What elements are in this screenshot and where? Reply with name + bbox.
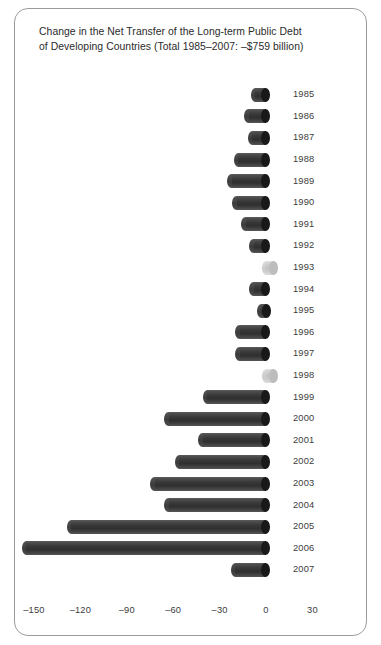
year-label-2003: 2003	[293, 478, 314, 488]
bar-1992[interactable]	[254, 239, 266, 253]
bar-row: 2004	[15, 494, 368, 516]
bar-row: 1988	[15, 149, 368, 171]
bar-row: 1997	[15, 343, 368, 365]
bar-1998[interactable]	[266, 369, 274, 383]
bar-body	[169, 498, 266, 512]
bar-body	[26, 541, 266, 555]
plot-area: 1985198619871988198919901991199219931994…	[15, 75, 368, 595]
year-label-1990: 1990	[293, 197, 314, 207]
bar-row: 1996	[15, 322, 368, 344]
x-axis: –150–120–90–60–30030	[15, 605, 368, 627]
x-tick-label: 0	[263, 605, 268, 615]
bar-row: 1991	[15, 214, 368, 236]
bar-row: 1995	[15, 300, 368, 322]
bar-row: 2002	[15, 451, 368, 473]
bar-cap-right	[262, 304, 271, 318]
year-label-1987: 1987	[293, 132, 314, 142]
bar-body	[169, 412, 266, 426]
year-label-2006: 2006	[293, 543, 314, 553]
bar-cap-right	[261, 477, 270, 491]
year-label-2005: 2005	[293, 521, 314, 531]
bar-cap-right	[261, 563, 270, 577]
bar-body	[179, 455, 266, 469]
bar-2006[interactable]	[26, 541, 266, 555]
bar-1999[interactable]	[207, 390, 266, 404]
bar-body	[207, 390, 266, 404]
bar-body	[71, 520, 266, 534]
bar-2002[interactable]	[179, 455, 266, 469]
bar-1991[interactable]	[246, 217, 266, 231]
bar-cap-right	[261, 239, 270, 253]
year-label-2004: 2004	[293, 500, 314, 510]
year-label-1992: 1992	[293, 240, 314, 250]
bar-1986[interactable]	[249, 109, 266, 123]
bar-body	[203, 433, 266, 447]
bar-cap-right	[261, 282, 270, 296]
year-label-2007: 2007	[293, 564, 314, 574]
bar-cap-right	[261, 109, 270, 123]
bar-row: 1999	[15, 386, 368, 408]
bar-1993[interactable]	[266, 261, 274, 275]
year-label-1996: 1996	[293, 327, 314, 337]
bar-cap-right	[261, 131, 270, 145]
bar-cap-right	[269, 261, 278, 275]
bar-2005[interactable]	[71, 520, 266, 534]
bar-cap-right	[261, 196, 270, 210]
bar-row: 1990	[15, 192, 368, 214]
bar-row: 1993	[15, 257, 368, 279]
x-tick-label: –150	[23, 605, 44, 615]
bar-cap-right	[261, 541, 270, 555]
year-label-2001: 2001	[293, 435, 314, 445]
bar-1990[interactable]	[237, 196, 266, 210]
year-label-1997: 1997	[293, 348, 314, 358]
bar-1987[interactable]	[252, 131, 266, 145]
bar-row: 1998	[15, 365, 368, 387]
bar-1996[interactable]	[240, 325, 266, 339]
bar-1985[interactable]	[255, 88, 266, 102]
bar-2007[interactable]	[235, 563, 266, 577]
year-label-1986: 1986	[293, 111, 314, 121]
bar-2000[interactable]	[169, 412, 266, 426]
year-label-1991: 1991	[293, 219, 314, 229]
x-tick-label: –120	[70, 605, 91, 615]
x-tick-label: –30	[212, 605, 228, 615]
bar-cap-right	[261, 174, 270, 188]
bar-2003[interactable]	[155, 477, 266, 491]
bar-row: 1985	[15, 84, 368, 106]
bar-cap-right	[261, 520, 270, 534]
bar-cap-right	[261, 433, 270, 447]
bar-1989[interactable]	[232, 174, 266, 188]
year-label-1985: 1985	[293, 89, 314, 99]
year-label-2000: 2000	[293, 413, 314, 423]
bar-row: 2000	[15, 408, 368, 430]
year-label-1989: 1989	[293, 176, 314, 186]
bar-1988[interactable]	[238, 153, 266, 167]
year-label-1999: 1999	[293, 392, 314, 402]
bar-row: 2006	[15, 538, 368, 560]
bar-cap-right	[261, 498, 270, 512]
bar-row: 1986	[15, 106, 368, 128]
bar-cap-right	[261, 88, 270, 102]
bar-cap-right	[261, 325, 270, 339]
bar-row: 2003	[15, 473, 368, 495]
year-label-1995: 1995	[293, 305, 314, 315]
year-label-1994: 1994	[293, 284, 314, 294]
bar-body	[155, 477, 266, 491]
bar-cap-right	[261, 390, 270, 404]
bar-cap-right	[261, 217, 270, 231]
bar-1997[interactable]	[240, 347, 266, 361]
bar-1994[interactable]	[254, 282, 266, 296]
bar-1995[interactable]	[261, 304, 266, 318]
bar-cap-right	[261, 412, 270, 426]
bar-cap-right	[261, 153, 270, 167]
bar-row: 1987	[15, 127, 368, 149]
chart-title-line-1: Change in the Net Transfer of the Long-t…	[39, 24, 349, 39]
bar-2001[interactable]	[203, 433, 266, 447]
chart-card: Change in the Net Transfer of the Long-t…	[14, 8, 367, 636]
year-label-2002: 2002	[293, 456, 314, 466]
year-label-1998: 1998	[293, 370, 314, 380]
bar-row: 2007	[15, 559, 368, 581]
bar-2004[interactable]	[169, 498, 266, 512]
x-tick-label: –90	[119, 605, 135, 615]
chart-title-line-2: of Developing Countries (Total 1985–2007…	[39, 39, 349, 54]
